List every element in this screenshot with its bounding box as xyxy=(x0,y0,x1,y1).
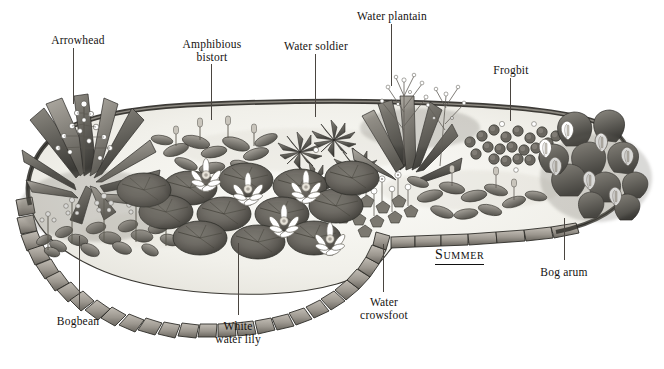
label-frogbit: Frogbit xyxy=(441,64,581,77)
leader-line-water-soldier xyxy=(315,54,316,117)
label-white-water-lily: White water lily xyxy=(168,320,308,345)
leader-line-white-water-lily xyxy=(238,243,239,315)
leader-line-frogbit xyxy=(510,78,511,121)
season-caption: Summer xyxy=(435,247,484,265)
leader-line-amphibious-bistort xyxy=(211,64,212,120)
pond-planting-illustration: Arrowhead Amphibious bistort Water soldi… xyxy=(0,0,664,369)
leader-line-bog-arum xyxy=(564,218,565,260)
label-arrowhead: Arrowhead xyxy=(8,34,148,47)
leader-line-bogbean xyxy=(79,236,80,310)
label-bogbean: Bogbean xyxy=(8,315,148,328)
label-water-plantain: Water plantain xyxy=(322,10,462,23)
label-bog-arum: Bog arum xyxy=(494,266,634,279)
label-water-crowsfoot: Water crowsfoot xyxy=(314,296,454,321)
leader-line-arrowhead xyxy=(73,48,74,104)
leader-line-water-plantain xyxy=(391,24,392,86)
leader-line-water-crowsfoot xyxy=(383,244,384,292)
label-water-soldier: Water soldier xyxy=(246,40,386,53)
